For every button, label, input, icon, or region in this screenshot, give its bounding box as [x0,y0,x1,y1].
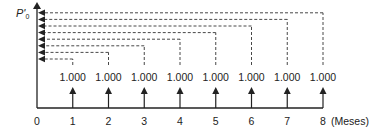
y-axis-label-subscript: 0 [25,13,29,20]
arrow-up-icon [105,87,112,94]
arrow-up-icon [284,87,291,94]
y-axis-label: P'0 [16,8,29,20]
y-axis-arrowhead-icon [33,2,41,9]
arrow-up-icon [141,87,148,94]
arrow-up-icon [69,87,76,94]
arrow-up-icon [248,87,255,94]
cash-flow-diagram [0,0,381,131]
x-axis-unit-label: (Meses) [331,116,369,127]
arrow-left-icon [38,56,45,62]
cash-flow-amount: 1.000 [238,72,264,83]
origin-label: 0 [34,116,40,127]
arrow-up-icon [320,87,327,94]
arrow-left-icon [38,49,45,55]
cash-flow-amount: 1.000 [60,72,86,83]
cash-flow-amount: 1.000 [131,72,157,83]
period-tick-label: 8 [320,116,326,127]
cash-flow-amount: 1.000 [95,72,121,83]
period-tick-label: 2 [106,116,112,127]
arrow-up-icon [212,87,219,94]
period-tick-label: 1 [70,116,76,127]
arrow-left-icon [38,29,45,35]
period-tick-label: 3 [141,116,147,127]
arrow-left-icon [38,43,45,49]
arrow-left-icon [38,10,45,16]
arrow-left-icon [38,16,45,22]
period-tick-label: 7 [284,116,290,127]
cash-flow-amount: 1.000 [274,72,300,83]
arrow-left-icon [38,36,45,42]
cash-flow-amount: 1.000 [310,72,336,83]
period-tick-label: 6 [249,116,255,127]
cash-flow-amount: 1.000 [203,72,229,83]
period-tick-label: 4 [177,116,183,127]
cash-flow-amount: 1.000 [167,72,193,83]
period-tick-label: 5 [213,116,219,127]
arrow-up-icon [177,87,184,94]
arrow-left-icon [38,23,45,29]
